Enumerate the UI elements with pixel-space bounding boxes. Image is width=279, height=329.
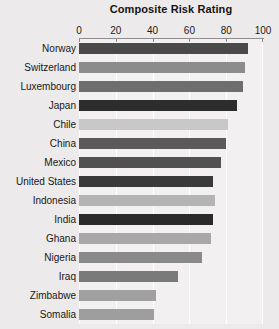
bar-luxembourg — [79, 81, 243, 92]
bar-row — [79, 195, 263, 206]
x-tick-label-60: 60 — [184, 25, 195, 37]
category-label-somalia: Somalia — [0, 309, 76, 321]
x-tick-label-80: 80 — [221, 25, 232, 37]
bar-row — [79, 119, 263, 130]
x-tick-label-100: 100 — [255, 25, 272, 37]
x-tick-mark-0 — [79, 38, 80, 42]
bar-india — [79, 214, 213, 225]
bar-row — [79, 81, 263, 92]
bar-china — [79, 138, 226, 149]
bar-row — [79, 309, 263, 320]
bar-row — [79, 43, 263, 54]
category-label-switzerland: Switzerland — [0, 62, 76, 74]
x-axis-tick-labels: 020406080100 — [0, 25, 279, 38]
category-label-japan: Japan — [0, 100, 76, 112]
bar-iraq — [79, 271, 178, 282]
plot-area — [79, 39, 263, 324]
bar-japan — [79, 100, 237, 111]
bar-row — [79, 62, 263, 73]
bar-row — [79, 233, 263, 244]
bar-ghana — [79, 233, 211, 244]
category-label-chile: Chile — [0, 119, 76, 131]
category-label-norway: Norway — [0, 43, 76, 55]
category-labels: NorwaySwitzerlandLuxembourgJapanChileChi… — [0, 39, 76, 324]
category-label-nigeria: Nigeria — [0, 252, 76, 264]
x-tick-label-40: 40 — [147, 25, 158, 37]
category-label-ghana: Ghana — [0, 233, 76, 245]
category-label-india: India — [0, 214, 76, 226]
bar-row — [79, 214, 263, 225]
x-tick-label-0: 0 — [76, 25, 82, 37]
x-tick-mark-20 — [116, 38, 117, 42]
bar-chile — [79, 119, 228, 130]
category-label-united-states: United States — [0, 176, 76, 188]
composite-risk-rating-chart: Composite Risk Rating 020406080100 Norwa… — [0, 0, 279, 329]
category-label-mexico: Mexico — [0, 157, 76, 169]
category-label-zimbabwe: Zimbabwe — [0, 290, 76, 302]
x-tick-mark-40 — [153, 38, 154, 42]
x-tick-mark-80 — [226, 38, 227, 42]
bar-indonesia — [79, 195, 215, 206]
bar-row — [79, 252, 263, 263]
category-label-luxembourg: Luxembourg — [0, 81, 76, 93]
x-tick-mark-100 — [262, 38, 263, 42]
category-label-china: China — [0, 138, 76, 150]
bar-row — [79, 290, 263, 301]
x-tick-mark-60 — [189, 38, 190, 42]
bar-row — [79, 157, 263, 168]
chart-title: Composite Risk Rating — [79, 2, 263, 16]
bar-row — [79, 271, 263, 282]
bar-row — [79, 100, 263, 111]
x-tick-label-20: 20 — [110, 25, 121, 37]
bar-switzerland — [79, 62, 245, 73]
bar-united-states — [79, 176, 213, 187]
bar-nigeria — [79, 252, 202, 263]
bar-mexico — [79, 157, 221, 168]
bar-row — [79, 138, 263, 149]
bar-zimbabwe — [79, 290, 156, 301]
bar-somalia — [79, 309, 154, 320]
bar-row — [79, 176, 263, 187]
category-label-iraq: Iraq — [0, 271, 76, 283]
category-label-indonesia: Indonesia — [0, 195, 76, 207]
bar-norway — [79, 43, 248, 54]
